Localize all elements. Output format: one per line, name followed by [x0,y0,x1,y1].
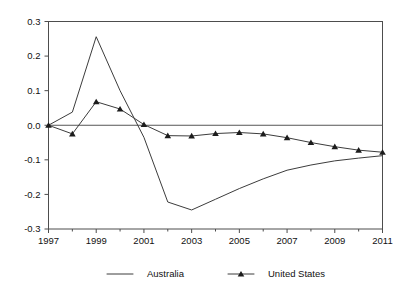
y-axis-tick-label: 0.2 [27,50,40,61]
x-axis-tick-label: 1999 [86,235,107,246]
x-axis-tick-label: 2009 [324,235,345,246]
y-axis-tick-label: -0.1 [24,154,40,165]
legend-label: United States [268,268,325,279]
chart-canvas: 0.30.20.10.0-0.1-0.2-0.3 199719992001200… [0,0,405,297]
y-axis-tick-label: 0.0 [27,120,40,131]
x-axis-tick-label: 1997 [38,235,59,246]
x-axis-tick-label: 2005 [229,235,250,246]
x-axis-tick-label: 2007 [277,235,298,246]
y-axis-tick-label: -0.3 [24,223,40,234]
line-chart: 0.30.20.10.0-0.1-0.2-0.3 199719992001200… [0,0,405,297]
x-axis-tick-label: 2011 [372,235,392,246]
y-axis-tick-label: 0.1 [27,85,40,96]
x-axis-tick-label: 2001 [133,235,154,246]
y-axis-tick-label: -0.2 [24,189,40,200]
y-axis-tick-label: 0.3 [27,16,40,27]
legend-label: Australia [147,268,185,279]
x-axis-tick-label: 2003 [181,235,202,246]
